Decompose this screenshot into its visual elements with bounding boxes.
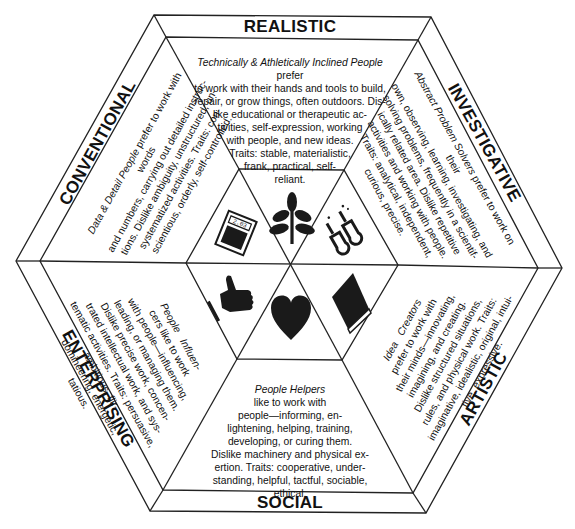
label-realistic: REALISTIC — [240, 17, 340, 37]
book-icon — [332, 273, 371, 333]
social-line: developing, or curing them. — [195, 435, 385, 448]
test-tubes-icon — [319, 203, 368, 256]
social-line: Dislike machinery and physical ex- — [195, 448, 385, 461]
realistic-title: Technically & Athletically Inclined Peop… — [197, 57, 382, 68]
realistic-line: prefer — [277, 70, 304, 81]
social-line: ertion. Traits: cooperative, under- — [195, 461, 385, 474]
social-line: standing, helpful, tactful, sociable, et… — [195, 474, 385, 500]
thumbs-up-hand-icon — [207, 276, 253, 322]
social-title: People Helpers — [255, 384, 325, 395]
realistic-line: reliant. — [190, 173, 390, 186]
heart-icon — [271, 296, 311, 341]
calculator-icon: 2.03 — [215, 211, 256, 256]
